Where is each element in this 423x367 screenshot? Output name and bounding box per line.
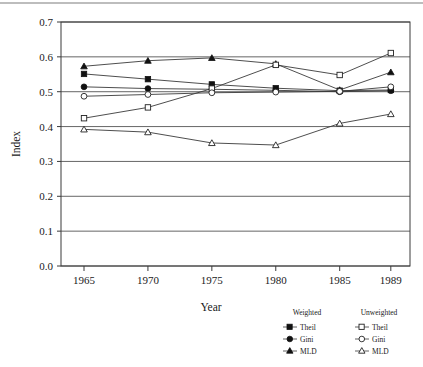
legend-label-unweighted-theil: Theil — [372, 323, 388, 332]
y-axis-title: Index — [10, 131, 22, 157]
legend-row-mld: MLD MLD — [283, 347, 389, 356]
x-tick-label-1985: 1985 — [329, 274, 352, 286]
series-line-weighted-mld — [84, 58, 391, 90]
y-tick-label-0.5: 0.5 — [39, 86, 53, 98]
x-tick-label-1970: 1970 — [137, 274, 160, 286]
legend-header-weighted: Weighted — [293, 308, 322, 317]
datapoint-unweighted-theil-1989 — [388, 50, 393, 55]
y-tick-label-0.4: 0.4 — [39, 121, 53, 133]
datapoint-weighted-gini-1970 — [145, 86, 151, 92]
datapoint-weighted-theil-1965 — [81, 71, 86, 76]
legend-marker-unweighted-theil — [359, 324, 364, 329]
y-tick-marks — [57, 22, 61, 266]
datapoint-unweighted-gini-1985 — [337, 88, 343, 94]
y-tick-label-0.6: 0.6 — [39, 51, 53, 63]
legend-label-weighted-mld: MLD — [300, 347, 317, 356]
datapoint-unweighted-theil-1970 — [145, 105, 150, 110]
y-tick-labels: 0.00.10.20.30.40.50.60.7 — [39, 16, 53, 272]
x-tick-label-1975: 1975 — [201, 274, 224, 286]
x-tick-marks — [84, 266, 391, 271]
datapoint-unweighted-mld-1989 — [388, 111, 395, 117]
datapoint-unweighted-gini-1965 — [81, 93, 87, 99]
y-tick-label-0.0: 0.0 — [39, 260, 53, 272]
legend-label-weighted-theil: Theil — [300, 323, 316, 332]
legend-label-unweighted-mld: MLD — [372, 347, 389, 356]
datapoint-weighted-mld-1989 — [388, 69, 395, 75]
datapoint-unweighted-gini-1989 — [388, 84, 394, 90]
x-axis-title: Year — [200, 301, 221, 313]
legend-row-theil: Theil Theil — [283, 323, 388, 332]
datapoint-weighted-theil-1970 — [145, 76, 150, 81]
series-weighted-mld — [81, 55, 394, 93]
legend-label-weighted-gini: Gini — [300, 335, 313, 344]
legend-marker-weighted-theil — [287, 324, 292, 329]
legend-marker-weighted-mld — [287, 348, 293, 354]
legend-marker-weighted-gini — [287, 336, 293, 342]
x-tick-label-1980: 1980 — [265, 274, 288, 286]
data-series-group — [81, 50, 394, 147]
datapoint-unweighted-theil-1980 — [273, 62, 278, 67]
chart-figure: 0.00.10.20.30.40.50.60.7 196519701975198… — [0, 0, 423, 367]
x-tick-label-1965: 1965 — [73, 274, 96, 286]
datapoint-unweighted-gini-1970 — [145, 92, 151, 98]
chart-svg: 0.00.10.20.30.40.50.60.7 196519701975198… — [0, 0, 423, 367]
legend-marker-unweighted-mld — [359, 348, 365, 354]
datapoint-unweighted-gini-1975 — [209, 90, 215, 96]
legend-label-unweighted-gini: Gini — [372, 335, 385, 344]
legend-row-gini: Gini Gini — [283, 335, 385, 344]
y-tick-label-0.7: 0.7 — [39, 16, 53, 28]
datapoint-unweighted-theil-1985 — [337, 72, 342, 77]
legend-header-unweighted: Unweighted — [361, 308, 398, 317]
series-line-unweighted-mld — [84, 114, 391, 145]
y-tick-label-0.3: 0.3 — [39, 155, 53, 167]
datapoint-unweighted-gini-1980 — [273, 89, 279, 95]
x-tick-label-1989: 1989 — [380, 274, 403, 286]
legend-marker-unweighted-gini — [359, 336, 365, 342]
y-tick-label-0.2: 0.2 — [39, 190, 53, 202]
x-tick-labels: 196519701975198019851989 — [73, 274, 402, 286]
series-unweighted-mld — [81, 111, 394, 148]
datapoint-unweighted-theil-1965 — [81, 116, 86, 121]
datapoint-weighted-gini-1965 — [81, 84, 87, 90]
y-tick-label-0.1: 0.1 — [39, 225, 53, 237]
chart-legend: Weighted Unweighted Theil Theil Gini Gin… — [283, 308, 398, 356]
